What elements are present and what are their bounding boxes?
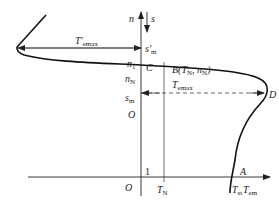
torque-speed-diagram: n s O O Tem s′m n1 nN sm C B(TN, nN) Tem… bbox=[0, 0, 279, 206]
origin-label: O bbox=[128, 109, 135, 120]
temax-prime-label: T′emax bbox=[75, 35, 98, 48]
n1-label: n1 bbox=[127, 58, 136, 71]
sm-prime-label: s′m bbox=[145, 43, 157, 56]
point-d-label: D bbox=[268, 89, 277, 100]
s-axis-label: s bbox=[151, 13, 155, 24]
point-c-label: C bbox=[146, 62, 153, 73]
tn-label: TN bbox=[157, 184, 168, 197]
point-b-label: B(TN, nN) bbox=[172, 64, 211, 77]
sm-label: sm bbox=[125, 92, 135, 105]
tem-axis-label: Tem bbox=[243, 184, 258, 197]
n-axis-label: n bbox=[129, 13, 134, 24]
one-label: 1 bbox=[145, 166, 150, 177]
nN-label: nN bbox=[125, 73, 135, 86]
temax-label: Temax bbox=[172, 79, 193, 92]
point-a-label: A bbox=[239, 166, 247, 177]
characteristic-curve bbox=[17, 15, 267, 193]
tst-label: Tst bbox=[232, 184, 242, 197]
origin-label-bottom: O bbox=[125, 182, 132, 193]
